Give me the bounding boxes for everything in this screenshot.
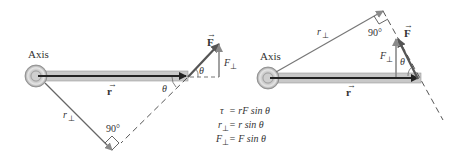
f-perp-label: F ⊥: [223, 57, 237, 71]
svg-text:⊥: ⊥: [222, 138, 229, 147]
theta-label-upper: θ: [199, 65, 204, 76]
right-angle-mark: [105, 136, 119, 150]
right-angle-label: 90°: [368, 27, 382, 38]
svg-text:r: r: [317, 26, 321, 37]
r-vector-overarrow: →: [108, 79, 117, 89]
r-perp-arrow: [276, 11, 383, 72]
line-of-action: [383, 11, 443, 120]
svg-text:τ: τ: [220, 105, 224, 116]
svg-text:r: r: [63, 109, 67, 120]
axis-label: Axis: [28, 48, 49, 60]
svg-text:⊥: ⊥: [322, 31, 329, 40]
equation-torque: τ = rF sin θ: [220, 105, 270, 116]
force-overarrow: →: [207, 29, 216, 39]
svg-text:⊥: ⊥: [222, 124, 229, 133]
left-diagram: Axis r → F → θ θ F ⊥ r ⊥ 90°: [25, 29, 237, 150]
svg-text:⊥: ⊥: [68, 114, 75, 123]
r-perp-label: r ⊥: [317, 26, 329, 40]
axis-label: Axis: [260, 50, 281, 62]
equation-r-perp: r ⊥ = r sin θ: [218, 119, 264, 133]
svg-text:= rF sin θ: = rF sin θ: [229, 105, 270, 116]
svg-text:= r sin θ: = r sin θ: [229, 119, 264, 130]
r-perp-arrow: [45, 83, 112, 150]
svg-text:= F sin θ: = F sin θ: [229, 133, 266, 144]
theta-label: θ: [400, 56, 405, 67]
right-angle-mark: [374, 16, 388, 24]
equation-f-perp: F ⊥ = F sin θ: [215, 133, 266, 147]
f-perp-label: F ⊥: [379, 50, 393, 64]
svg-text:⊥: ⊥: [230, 62, 237, 71]
line-of-action: [121, 78, 187, 143]
force-overarrow: →: [404, 20, 413, 30]
torque-diagram: Axis r → F → θ θ F ⊥ r ⊥ 90° τ = rF sin …: [0, 0, 469, 166]
svg-text:⊥: ⊥: [386, 55, 393, 64]
right-angle-label: 90°: [106, 123, 120, 134]
right-diagram: Axis r → F → θ F ⊥ r ⊥ 90°: [257, 11, 443, 120]
equations: τ = rF sin θ r ⊥ = r sin θ F ⊥ = F sin θ: [215, 105, 270, 147]
theta-label-lower: θ: [162, 83, 167, 94]
r-vector-overarrow: →: [347, 80, 356, 90]
